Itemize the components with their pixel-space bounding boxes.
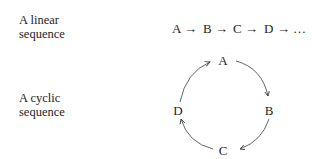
linear-sequence: A → B → C → D → …: [172, 21, 306, 36]
cycle-arrow-d-to-a: [180, 62, 210, 102]
linear-ellipsis: …: [293, 21, 306, 36]
cycle-node-c: C: [219, 143, 228, 158]
linear-arrow-3: →: [245, 21, 258, 36]
linear-item-b: B: [203, 21, 212, 36]
cycle-node-a: A: [218, 53, 228, 68]
linear-arrow-1: →: [184, 21, 197, 36]
cycle-node-d: D: [173, 103, 182, 118]
cycle-arrow-b-to-c: [240, 119, 269, 149]
linear-item-a: A: [172, 21, 182, 36]
linear-item-c: C: [233, 21, 242, 36]
linear-item-d: D: [264, 21, 273, 36]
cycle-arrow-c-to-d: [181, 119, 213, 149]
linear-arrow-2: →: [215, 21, 228, 36]
cycle-arrow-a-to-b: [236, 61, 268, 96]
diagram-canvas: A → B → C → D → … A B C D: [0, 0, 318, 159]
cyclic-sequence: A B C D: [173, 53, 273, 158]
linear-arrow-4: →: [277, 21, 290, 36]
cycle-node-b: B: [265, 103, 274, 118]
